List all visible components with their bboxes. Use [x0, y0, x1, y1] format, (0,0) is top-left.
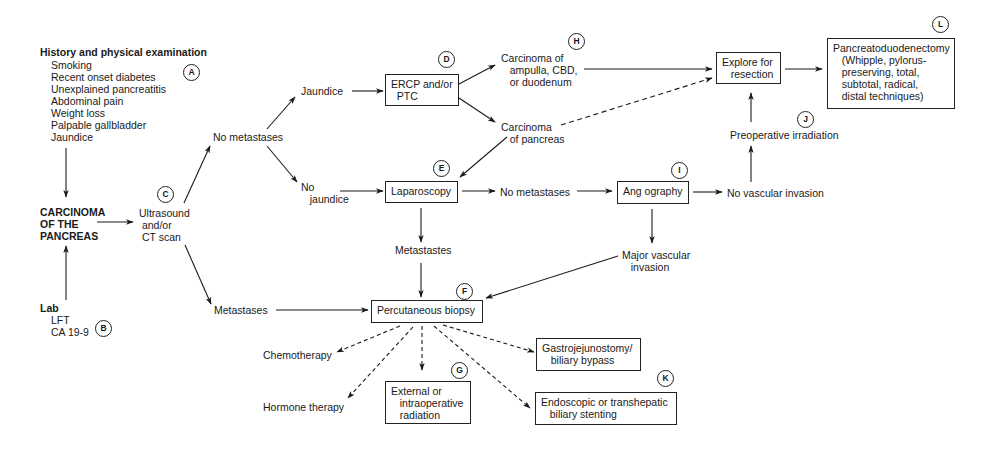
edge-ercp-ampulla: [459, 65, 495, 84]
no-metastases-2-node: No metastases: [500, 186, 570, 198]
ultrasound-node: Ultrasound and/or CT scan: [139, 207, 190, 243]
percutaneous-biopsy-box: Percutaneous biopsy: [371, 300, 483, 323]
lab-item: LFT: [51, 314, 70, 326]
ercp-box: ERCP and/or PTC: [385, 74, 459, 106]
badge-d: D: [438, 51, 455, 68]
stenting-box: Endoscopic or transhepatic biliary stent…: [535, 392, 677, 425]
preoperative-irradiation-node: Preoperative irradiation: [730, 129, 839, 141]
badge-f: F: [456, 283, 473, 300]
no-jaundice-node: No jaundice: [301, 181, 349, 205]
radiation-box: External or intraoperative radiation: [385, 381, 471, 424]
badge-j: J: [797, 111, 814, 128]
lab-title: Lab: [40, 302, 59, 314]
carcinoma-node: CARCINOMA OF THE PANCREAS: [40, 206, 105, 242]
history-item: Jaundice: [51, 131, 93, 143]
history-item: Weight loss: [51, 107, 105, 119]
history-item: Unexplained pancreatitis: [51, 83, 166, 95]
pancreatoduodenectomy-box: Pancreatoduodenectomy (Whipple, pylorus-…: [827, 38, 955, 109]
badge-a: A: [183, 64, 200, 81]
jaundice-node: Jaundice: [301, 85, 343, 97]
metastases-node: Metastases: [214, 304, 268, 316]
major-vascular-invasion-node: Major vascular invasion: [622, 249, 690, 273]
edge-major-biopsy: [486, 256, 618, 298]
badge-k: K: [657, 370, 674, 387]
history-item: Recent onset diabetes: [51, 71, 156, 83]
laparoscopy-box: Laparoscopy: [385, 181, 458, 203]
edge-nometa-nojaundice: [267, 146, 297, 182]
gastrojejunostomy-box: Gastrojejunostomy/ biliary bypass: [536, 338, 641, 371]
history-item: Abdominal pain: [51, 95, 123, 107]
badge-i: I: [671, 162, 688, 179]
history-title: History and physical examination: [40, 46, 207, 58]
angiography-box: Ang ography: [617, 181, 689, 204]
badge-g: G: [451, 362, 468, 379]
edge-biopsy-chemo: [337, 326, 400, 352]
edge-ultrasound-nometa: [184, 146, 210, 203]
carcinoma-pancreas-node: Carcinoma of pancreas: [501, 121, 565, 145]
edge-pancreas-laparoscopy: [460, 137, 507, 177]
explore-box: Explore for resection: [716, 52, 781, 84]
carcinoma-ampulla-node: Carcinoma of ampulla, CBD, or duodenum: [501, 52, 577, 88]
metastases-2-node: Metastastes: [395, 244, 452, 256]
flowchart-canvas: History and physical examination Smoking…: [0, 0, 990, 456]
badge-b: B: [95, 320, 112, 337]
edge-biopsy-gastro: [443, 325, 534, 352]
edge-nometa-jaundice: [267, 97, 295, 129]
badge-l: L: [932, 16, 949, 33]
edge-pancreas-explore: [561, 78, 712, 125]
history-item: Palpable gallbladder: [51, 119, 146, 131]
history-item: Smoking: [51, 59, 92, 71]
badge-h: H: [568, 33, 585, 50]
edge-ultrasound-meta: [185, 245, 211, 304]
chemotherapy-node: Chemotherapy: [263, 349, 332, 361]
badge-c: C: [157, 186, 174, 203]
no-metastases-node: No metastases: [213, 131, 283, 143]
no-vascular-invasion-node: No vascular invasion: [727, 187, 824, 199]
edge-ercp-pancreas: [459, 98, 495, 122]
hormone-therapy-node: Hormone therapy: [263, 401, 344, 413]
lab-item: CA 19-9: [51, 326, 89, 338]
badge-e: E: [433, 160, 450, 177]
